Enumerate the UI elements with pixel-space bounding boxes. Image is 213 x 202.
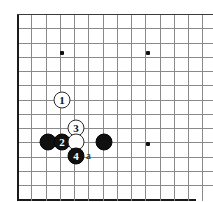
stone-white-1[interactable]: 1 bbox=[54, 92, 71, 109]
grid-line-vertical bbox=[88, 14, 89, 201]
stone-move-number: 4 bbox=[73, 150, 79, 161]
stone-move-number: 3 bbox=[73, 122, 79, 133]
grid-line-vertical bbox=[103, 14, 104, 201]
grid-line-vertical bbox=[188, 14, 189, 201]
board-label-a: a bbox=[86, 150, 91, 161]
hoshi-upper-right bbox=[146, 51, 150, 55]
go-board-diagram: 1234a bbox=[0, 0, 213, 202]
grid-line-vertical bbox=[46, 14, 47, 201]
board-edge-bottom bbox=[17, 199, 196, 201]
grid-line-vertical bbox=[31, 14, 32, 201]
grid-line-vertical bbox=[160, 14, 161, 201]
stone-black-plain[interactable] bbox=[96, 134, 113, 151]
board-edge-left bbox=[17, 14, 19, 201]
stone-move-number: 1 bbox=[59, 94, 65, 105]
stone-move-number: 2 bbox=[59, 136, 65, 147]
hoshi-upper-left bbox=[60, 51, 64, 55]
grid-line-vertical bbox=[202, 14, 203, 201]
grid-line-vertical bbox=[174, 14, 175, 201]
grid-line-vertical bbox=[117, 14, 118, 201]
stone-black-4[interactable]: 4 bbox=[68, 148, 85, 165]
board-edge-top bbox=[17, 14, 213, 15]
grid-line-vertical bbox=[131, 14, 132, 201]
grid-line-vertical bbox=[74, 14, 75, 201]
grid-line-vertical bbox=[145, 14, 146, 201]
hoshi-lower-right bbox=[146, 142, 150, 146]
